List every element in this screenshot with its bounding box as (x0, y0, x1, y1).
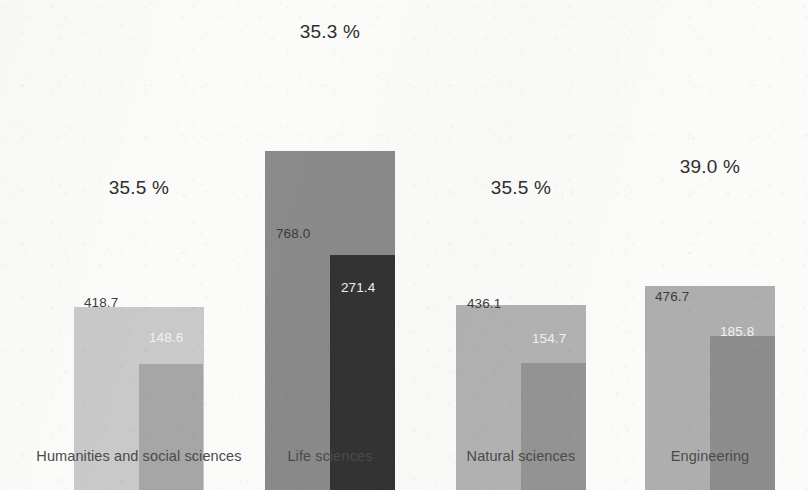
bar-share-group-4 (710, 336, 775, 490)
percent-label-group-2: 35.3 % (245, 22, 415, 41)
bar-chart: 35.5 % 418.7 148.6 Humanities and social… (0, 0, 808, 490)
value-label-total-group-1: 418.7 (84, 296, 118, 310)
percent-label-group-4: 39.0 % (625, 157, 795, 176)
category-label-group-1: Humanities and social sciences (0, 449, 278, 464)
value-label-total-group-4: 476.7 (655, 290, 689, 304)
value-label-share-group-3: 154.7 (532, 332, 566, 346)
value-label-total-group-2: 768.0 (276, 227, 310, 241)
category-label-group-2: Life sciences (245, 449, 415, 464)
value-label-share-group-1: 148.6 (149, 331, 183, 345)
percent-label-group-3: 35.5 % (436, 178, 606, 197)
bar-share-group-3 (521, 363, 586, 490)
bar-share-group-1 (139, 364, 203, 490)
value-label-share-group-2: 271.4 (341, 281, 375, 295)
value-label-share-group-4: 185.8 (720, 325, 754, 339)
category-label-group-3: Natural sciences (436, 449, 606, 464)
value-label-total-group-3: 436.1 (467, 297, 501, 311)
percent-label-group-1: 35.5 % (0, 178, 278, 197)
category-label-group-4: Engineering (625, 449, 795, 464)
